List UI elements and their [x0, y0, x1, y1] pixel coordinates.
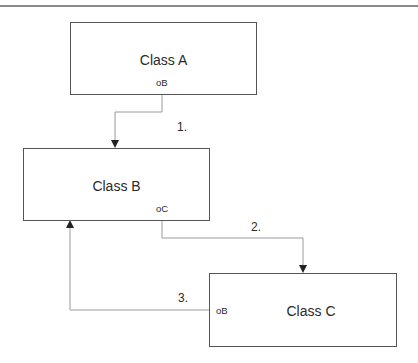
connector-2 [162, 220, 307, 273]
connector-3-label: 3. [178, 291, 188, 305]
class-b-port-oc[interactable]: oC [156, 203, 168, 214]
arrowhead-up-icon [66, 220, 74, 228]
arrowhead-down-icon [299, 265, 307, 273]
arrowhead-down-icon [111, 140, 119, 148]
connector-1-label: 1. [177, 120, 187, 134]
connector-1 [111, 94, 162, 148]
class-a-label: Class A [71, 52, 256, 68]
class-c-port-ob[interactable]: oB [216, 305, 228, 316]
class-b-label: Class B [24, 178, 209, 194]
class-c-box[interactable]: Class C oB [209, 273, 397, 347]
class-a-port-ob[interactable]: oB [156, 77, 168, 88]
class-b-box[interactable]: Class B oC [23, 148, 210, 221]
class-c-label: Class C [218, 303, 404, 319]
class-a-box[interactable]: Class A oB [70, 22, 257, 95]
connector-2-label: 2. [251, 220, 261, 234]
